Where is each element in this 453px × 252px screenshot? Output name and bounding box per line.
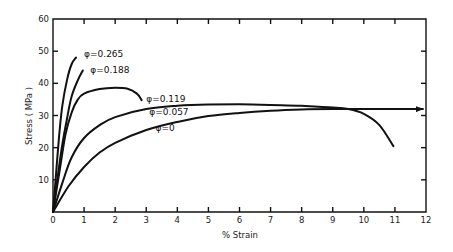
y-tick-label: 10 xyxy=(38,175,49,185)
x-tick-label: 5 xyxy=(206,215,211,225)
x-tick-label: 10 xyxy=(358,215,369,225)
y-tick-label: 60 xyxy=(38,14,49,24)
curve-series-4 xyxy=(53,109,423,212)
data-curves xyxy=(53,58,423,212)
x-tick-label: 6 xyxy=(237,215,242,225)
x-tick-label: 4 xyxy=(175,215,180,225)
x-tick-label: 0 xyxy=(50,215,55,225)
series-label: φ=0.265 xyxy=(84,49,123,59)
x-tick-label: 11 xyxy=(390,215,401,225)
x-tick-label: 9 xyxy=(330,215,335,225)
series-labels: φ=0.265φ=0.188φ=0.119φ=0.057φ=0 xyxy=(84,49,189,133)
axes xyxy=(53,19,426,212)
y-axis-title: Stress ( MPa ) xyxy=(24,87,34,145)
stress-strain-chart: 0123456789101112102030405060 φ=0.265φ=0.… xyxy=(0,0,453,252)
x-tick-label: 3 xyxy=(144,215,149,225)
series-label: φ=0 xyxy=(156,123,175,133)
x-tick-label: 12 xyxy=(421,215,432,225)
curve-series-2 xyxy=(53,88,142,212)
series-label: φ=0.119 xyxy=(146,94,186,104)
y-tick-label: 50 xyxy=(38,46,49,56)
series-label: φ=0.057 xyxy=(149,107,188,117)
x-axis-title: % Strain xyxy=(222,230,258,240)
x-tick-label: 8 xyxy=(299,215,304,225)
curve-series-3 xyxy=(53,104,393,212)
y-tick-label: 20 xyxy=(38,143,49,153)
x-tick-label: 2 xyxy=(112,215,117,225)
plot-frame xyxy=(53,19,426,212)
curve-series-1 xyxy=(53,71,83,213)
x-tick-label: 7 xyxy=(268,215,273,225)
x-tick-label: 1 xyxy=(81,215,86,225)
series-label: φ=0.188 xyxy=(90,65,130,75)
y-tick-label: 30 xyxy=(38,111,49,121)
y-tick-label: 40 xyxy=(38,78,49,88)
